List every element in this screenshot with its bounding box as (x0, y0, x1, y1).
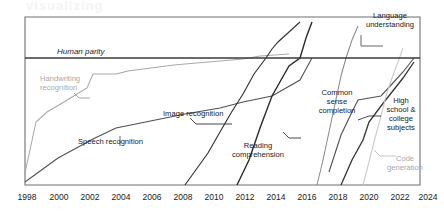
label-speech-recognition: Speech recognition (78, 137, 143, 146)
label-handwriting-line2: recognition (40, 83, 77, 92)
x-tick-1998: 1998 (18, 192, 37, 202)
label-reading-line2: comprehension (232, 150, 284, 159)
label-image-recognition: Image recognition (163, 109, 223, 118)
x-tick-2020: 2020 (360, 192, 379, 202)
label-language-line2: understanding (366, 20, 414, 29)
ai-benchmark-chart: visualizing (0, 0, 444, 214)
x-tick-2022: 2022 (391, 192, 410, 202)
x-tick-2000: 2000 (50, 192, 69, 202)
label-common-line2: sense (327, 97, 347, 106)
x-tick-2010: 2010 (205, 192, 224, 202)
leader-language (361, 35, 383, 46)
x-tick-2008: 2008 (174, 192, 193, 202)
human-parity-label: Human parity (57, 47, 106, 56)
label-hs-line2: school & (386, 105, 415, 114)
leader-code (374, 150, 396, 156)
chart-svg: Human parity Handwriting recognition Spe… (0, 0, 444, 214)
x-tick-2006: 2006 (143, 192, 162, 202)
label-code-line2: generation (387, 163, 423, 172)
label-hs-line3: college (389, 114, 413, 123)
leader-high-school (358, 116, 381, 120)
x-tick-2018: 2018 (329, 192, 348, 202)
label-reading-line1: Reading (244, 141, 272, 150)
label-hs-line4: subjects (387, 123, 415, 132)
leader-handwriting (74, 93, 90, 98)
x-tick-2004: 2004 (112, 192, 131, 202)
label-common-line3: completion (319, 106, 356, 115)
label-handwriting-line1: Handwriting (40, 74, 80, 83)
x-tick-2024: 2024 (419, 192, 438, 202)
series-image-recognition (185, 22, 300, 185)
x-tick-2012: 2012 (236, 192, 255, 202)
label-code-line1: Code (396, 154, 414, 163)
x-tick-2016: 2016 (298, 192, 317, 202)
leader-reading (283, 132, 301, 138)
x-tick-2002: 2002 (81, 192, 100, 202)
x-tick-2014: 2014 (267, 192, 286, 202)
x-axis-tick-labels: 1998 2000 2002 2004 2006 2008 2010 2012 … (18, 192, 438, 202)
label-common-line1: Common (322, 88, 353, 97)
label-language-line1: Language (373, 11, 407, 20)
label-hs-line1: High (393, 96, 409, 105)
